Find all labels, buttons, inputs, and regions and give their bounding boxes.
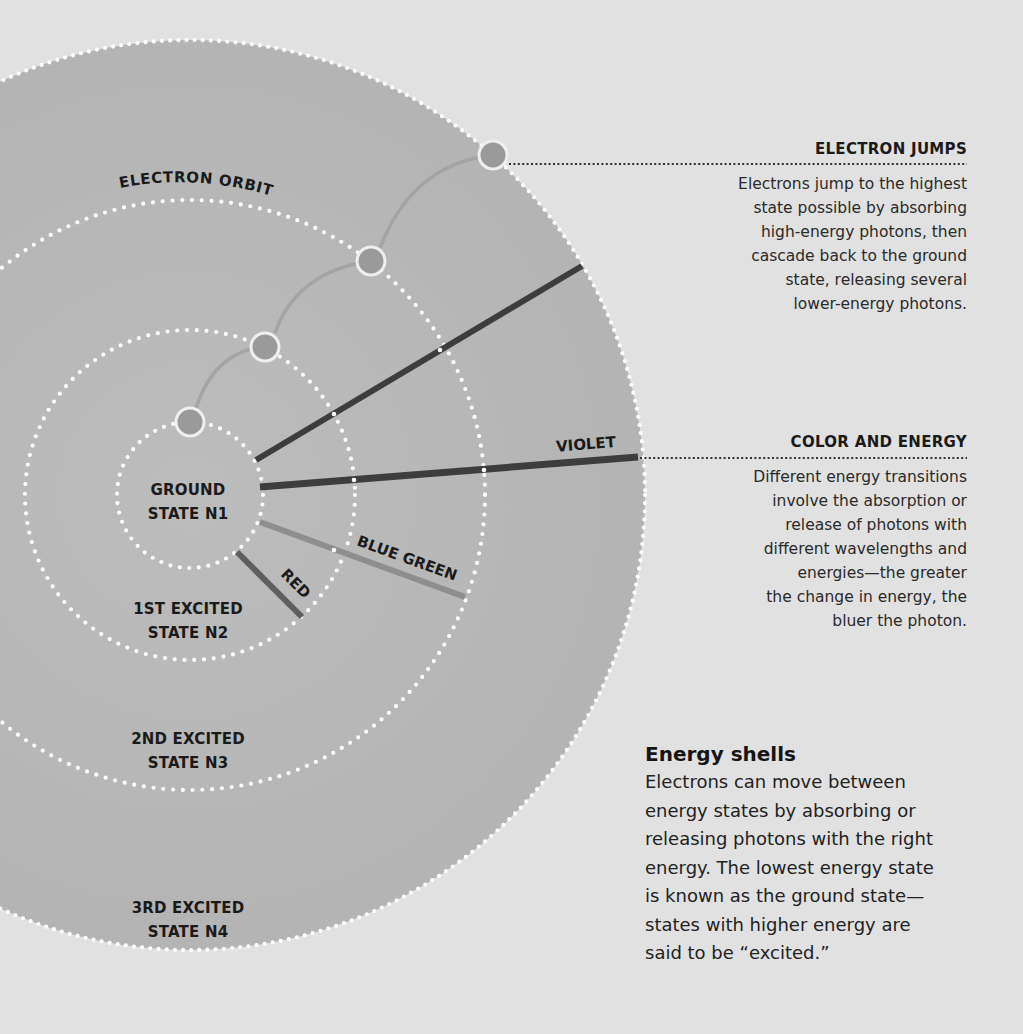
state-n4-line1: 3RD EXCITED xyxy=(98,896,278,920)
callout-electron-jumps: ELECTRON JUMPS Electrons jump to the hig… xyxy=(667,140,967,316)
state-label-n3: 2ND EXCITED STATE N3 xyxy=(98,727,278,775)
callout-electron-jumps-title: ELECTRON JUMPS xyxy=(667,140,967,164)
state-label-n2: 1ST EXCITED STATE N2 xyxy=(98,597,278,645)
text-line: Electrons can move between xyxy=(645,768,985,797)
text-line: state, releasing several xyxy=(667,268,967,292)
text-line: different wavelengths and xyxy=(667,537,967,561)
state-label-n4: 3RD EXCITED STATE N4 xyxy=(98,896,278,944)
state-n3-line2: STATE N3 xyxy=(98,751,278,775)
text-line: Different energy transitions xyxy=(667,465,967,489)
text-line: energy. The lowest energy state xyxy=(645,854,985,883)
callout-electron-jumps-body: Electrons jump to the highest state poss… xyxy=(667,172,967,316)
callout-color-and-energy: COLOR AND ENERGY Different energy transi… xyxy=(667,433,967,633)
text-line: energies—the greater xyxy=(667,561,967,585)
text-line: states with higher energy are xyxy=(645,911,985,940)
text-line: state possible by absorbing xyxy=(667,196,967,220)
callout-color-and-energy-body: Different energy transitions involve the… xyxy=(667,465,967,633)
state-n2-line1: 1ST EXCITED xyxy=(98,597,278,621)
energy-shells-caption: Energy shells Electrons can move between… xyxy=(645,740,985,968)
electron-n1 xyxy=(176,408,204,436)
text-line: cascade back to the ground xyxy=(667,244,967,268)
text-line: the change in energy, the xyxy=(667,585,967,609)
text-line: release of photons with xyxy=(667,513,967,537)
electron-n4 xyxy=(479,141,507,169)
text-line: lower-energy photons. xyxy=(667,292,967,316)
text-line: bluer the photon. xyxy=(667,609,967,633)
state-n1-line2: STATE N1 xyxy=(98,502,278,526)
energy-shells-diagram: ELECTRON ORBIT VIOLET BLUE GREEN RED GRO… xyxy=(0,0,1023,1034)
text-line: said to be “excited.” xyxy=(645,939,985,968)
text-line: energy states by absorbing or xyxy=(645,797,985,826)
callout-color-and-energy-title: COLOR AND ENERGY xyxy=(667,433,967,457)
state-label-n1: GROUND STATE N1 xyxy=(98,478,278,526)
text-line: is known as the ground state— xyxy=(645,882,985,911)
state-n2-line2: STATE N2 xyxy=(98,621,278,645)
energy-shells-title: Energy shells xyxy=(645,740,985,768)
text-line: Electrons jump to the highest xyxy=(667,172,967,196)
text-line: high-energy photons, then xyxy=(667,220,967,244)
electron-n3 xyxy=(357,247,385,275)
state-n4-line2: STATE N4 xyxy=(98,920,278,944)
electron-n2 xyxy=(251,333,279,361)
text-line: involve the absorption or xyxy=(667,489,967,513)
state-n1-line1: GROUND xyxy=(98,478,278,502)
text-line: releasing photons with the right xyxy=(645,825,985,854)
state-n3-line1: 2ND EXCITED xyxy=(98,727,278,751)
atom-disk xyxy=(0,40,645,950)
energy-shells-body: Electrons can move between energy states… xyxy=(645,768,985,968)
